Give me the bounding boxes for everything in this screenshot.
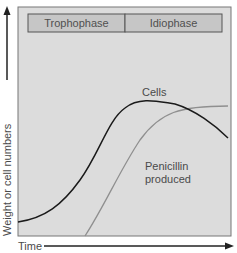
x-axis-label: Time [18, 240, 42, 252]
phase-trophophase-label: Trophophase [44, 17, 108, 29]
phase-idiophase-label: Idiophase [150, 17, 198, 29]
penicillin-label-line2: produced [145, 173, 191, 185]
y-axis-label: Weight or cell numbers [1, 123, 13, 236]
x-axis-arrow [44, 243, 234, 250]
cells-label: Cells [142, 86, 167, 98]
penicillin-label-line1: Penicillin [145, 160, 188, 172]
phase-bar: Trophophase Idiophase [28, 14, 222, 32]
y-axis-arrow [4, 6, 11, 80]
penicillin-growth-chart: Trophophase Idiophase Cells Penicillin p… [0, 0, 237, 253]
plot-area [18, 7, 231, 236]
